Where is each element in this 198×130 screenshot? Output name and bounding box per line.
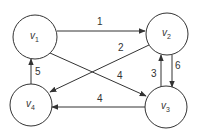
edge-weight-label: 6 xyxy=(175,60,181,71)
graph-diagram: 1243645 v1v2v3v4 xyxy=(0,0,198,130)
edge-weight-label: 1 xyxy=(97,16,103,27)
edge-weight-label: 2 xyxy=(118,42,124,53)
node-v1: v1 xyxy=(13,15,57,59)
node-v3: v3 xyxy=(145,86,187,128)
edge-weight-label: 3 xyxy=(151,68,157,79)
edge-weight-label: 4 xyxy=(97,93,103,104)
edge-arrow-line xyxy=(50,45,149,92)
edge-weight-label: 5 xyxy=(35,66,41,77)
edge-v2-v4: 2 xyxy=(50,42,149,92)
node-v2: v2 xyxy=(146,13,188,55)
edge-v2-v3: 6 xyxy=(172,55,181,87)
edge-arrow-line xyxy=(50,53,146,96)
node-v4: v4 xyxy=(10,84,52,126)
edge-v3-v2: 3 xyxy=(151,55,161,87)
edge-v1-v2: 1 xyxy=(57,16,145,31)
edge-v1-v3: 4 xyxy=(50,53,146,96)
edge-v3-v4: 4 xyxy=(52,93,145,107)
edge-v4-v1: 5 xyxy=(31,59,41,84)
edge-weight-label: 4 xyxy=(117,70,123,81)
